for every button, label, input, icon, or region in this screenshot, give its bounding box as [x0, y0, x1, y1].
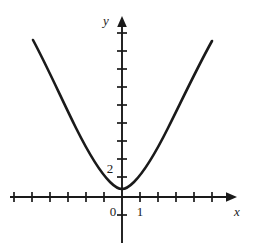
y-axis-label: y: [101, 13, 109, 28]
y-two-label: 2: [107, 161, 114, 176]
y-axis: [117, 16, 127, 243]
plot-canvas: y x 0 1 2: [0, 0, 253, 251]
x-axis: [10, 192, 237, 202]
x-axis-arrowhead: [226, 192, 237, 202]
x-axis-label: x: [233, 204, 240, 219]
y-axis-arrowhead: [117, 16, 127, 27]
parabola-figure: y x 0 1 2: [0, 0, 253, 251]
x-one-label: 1: [137, 204, 144, 219]
origin-label: 0: [110, 204, 117, 219]
